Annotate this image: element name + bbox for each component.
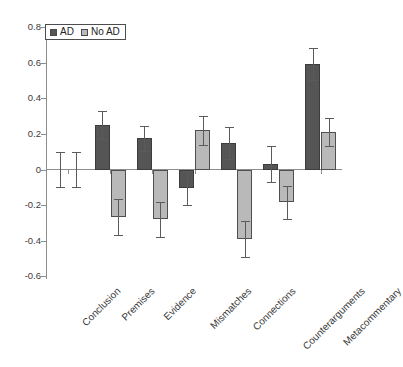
- error-bar-cap-lower: [56, 187, 65, 188]
- error-bar-stem: [187, 171, 188, 205]
- y-tick-label-wrap: -0.2: [0, 200, 41, 210]
- error-bar-stem: [76, 152, 77, 188]
- error-bar-stem: [313, 48, 314, 80]
- error-bar-cap-lower: [325, 146, 334, 147]
- zero-baseline: [46, 169, 342, 170]
- x-axis-label-evidence: Evidence: [162, 286, 198, 322]
- y-tick-label: 0.4: [11, 93, 41, 103]
- error-bar-cap-upper: [267, 146, 276, 147]
- error-bar-cap-lower: [183, 205, 192, 206]
- error-bar-cap-upper: [98, 111, 107, 112]
- error-bar-stem: [160, 202, 161, 238]
- y-tick-label-wrap: 0.2: [0, 129, 41, 139]
- y-tick-label-wrap: 0: [0, 165, 41, 175]
- error-bar-stem: [60, 152, 61, 188]
- error-bar-cap-upper: [283, 186, 292, 187]
- error-bar-cap-lower: [283, 219, 292, 220]
- error-bar-cap-upper: [56, 152, 65, 153]
- y-tick-mark: [41, 241, 46, 242]
- error-bar-cap-lower: [72, 187, 81, 188]
- error-bar-cap-lower: [199, 145, 208, 146]
- y-tick-mark: [41, 205, 46, 206]
- error-bar-stem: [203, 116, 204, 145]
- error-bar-stem: [329, 118, 330, 147]
- error-bar-cap-upper: [72, 152, 81, 153]
- y-tick-label: 0.8: [11, 22, 41, 32]
- y-tick-label: 0: [11, 165, 41, 175]
- y-tick-label: 0.6: [11, 58, 41, 68]
- error-bar-cap-upper: [140, 126, 149, 127]
- y-tick-label-wrap: 0.4: [0, 93, 41, 103]
- y-tick-label-wrap: -0.4: [0, 236, 41, 246]
- x-axis-label-premises: Premises: [120, 286, 157, 323]
- error-bar-cap-upper: [325, 118, 334, 119]
- legend: AD No AD: [45, 24, 126, 40]
- y-tick-mark: [41, 63, 46, 64]
- legend-label-no-ad: No AD: [91, 27, 120, 37]
- error-bar-stem: [271, 146, 272, 182]
- error-bar-cap-lower: [241, 257, 250, 258]
- error-bar-stem: [118, 199, 119, 235]
- error-bar-cap-lower: [309, 80, 318, 81]
- error-bar-cap-lower: [225, 159, 234, 160]
- error-bar-cap-upper: [309, 48, 318, 49]
- x-tick-mark: [195, 170, 196, 174]
- y-tick-label: 0.2: [11, 129, 41, 139]
- error-bar-cap-upper: [225, 127, 234, 128]
- y-tick-label: -0.6: [11, 271, 41, 281]
- y-tick-mark: [41, 170, 46, 171]
- x-tick-mark: [68, 170, 69, 174]
- legend-entry-ad: AD: [50, 27, 74, 37]
- y-tick-label-wrap: 0.8: [0, 22, 41, 32]
- x-axis-label-connections: Connections: [251, 286, 297, 332]
- error-bar-cap-lower: [140, 151, 149, 152]
- error-bar-stem: [144, 126, 145, 151]
- error-bar-cap-lower: [98, 139, 107, 140]
- error-bar-cap-upper: [199, 116, 208, 117]
- legend-swatch-ad-icon: [50, 29, 57, 36]
- error-bar-stem: [229, 127, 230, 159]
- error-bar-cap-lower: [267, 182, 276, 183]
- error-bar-stem: [102, 111, 103, 140]
- y-tick-mark: [41, 98, 46, 99]
- error-bar-cap-upper: [241, 221, 250, 222]
- x-axis-label-counterarguments: Counterarguments: [301, 286, 367, 352]
- error-bar-stem: [287, 186, 288, 220]
- y-tick-label: -0.4: [11, 236, 41, 246]
- y-tick-mark: [41, 276, 46, 277]
- error-bar-stem: [245, 221, 246, 257]
- y-axis-line: [46, 27, 47, 279]
- error-bar-cap-upper: [114, 199, 123, 200]
- legend-swatch-no-ad-icon: [81, 29, 88, 36]
- y-tick-label-wrap: 0.6: [0, 58, 41, 68]
- x-tick-mark: [321, 170, 322, 174]
- error-bar-cap-upper: [156, 202, 165, 203]
- error-bar-cap-lower: [156, 237, 165, 238]
- x-axis-label-mismatches: Mismatches: [208, 286, 253, 331]
- x-axis-label-conclusion: Conclusion: [81, 286, 123, 328]
- legend-label-ad: AD: [60, 27, 74, 37]
- error-bar-cap-upper: [183, 171, 192, 172]
- y-tick-mark: [41, 134, 46, 135]
- y-tick-label-wrap: -0.6: [0, 271, 41, 281]
- error-bar-cap-lower: [114, 235, 123, 236]
- legend-entry-no-ad: No AD: [81, 27, 120, 37]
- y-tick-label: -0.2: [11, 200, 41, 210]
